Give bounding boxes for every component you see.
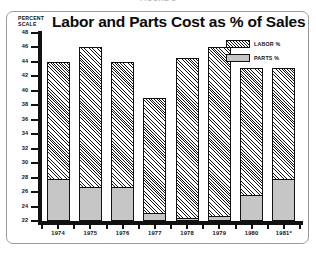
legend-item-parts: PARTS % (226, 54, 300, 65)
x-tick-edge (138, 225, 140, 229)
y-tick (31, 32, 38, 34)
chart-title: Labor and Parts Cost as % of Sales (52, 13, 305, 31)
bar-segment-labor (241, 69, 262, 195)
y-tick-label: 22 (12, 217, 28, 223)
bar-segment-labor (144, 99, 165, 213)
x-tick (122, 225, 124, 229)
bar-1981 (272, 68, 295, 221)
bar-segment-parts (209, 216, 230, 220)
x-tick-edge (299, 225, 301, 229)
x-tick-label: 1976 (105, 230, 141, 236)
chart-legend: LABOR % PARTS % (226, 40, 300, 68)
y-tick (31, 61, 38, 63)
x-tick-edge (170, 225, 172, 229)
bar-segment-parts (273, 179, 294, 220)
bar-segment-labor (209, 48, 230, 216)
bar-segment-labor (112, 63, 133, 187)
x-tick-label: 1978 (169, 230, 205, 236)
y-tick (31, 119, 38, 121)
bar-segment-labor (80, 48, 101, 188)
y-tick-label: 46 (12, 43, 28, 49)
y-tick (31, 162, 38, 164)
chart-screenshot: FIGURE 3 PERCENT SCALE Labor and Parts C… (0, 0, 316, 257)
x-tick-edge (41, 225, 43, 229)
y-tick-label: 24 (12, 203, 28, 209)
bar-1978 (176, 58, 199, 221)
x-tick-label: 1975 (72, 230, 108, 236)
x-tick (186, 225, 188, 229)
x-tick-label: 1977 (137, 230, 173, 236)
legend-swatch-labor-icon (226, 40, 250, 48)
x-tick-edge (267, 225, 269, 229)
bar-1979 (208, 47, 231, 221)
percent-scale-label: PERCENT SCALE (18, 15, 52, 27)
x-tick (57, 225, 59, 229)
y-tick (31, 104, 38, 106)
bar-1980 (240, 68, 263, 221)
y-tick (31, 148, 38, 150)
y-tick (31, 206, 38, 208)
y-tick-label: 30 (12, 159, 28, 165)
y-tick-label: 26 (12, 188, 28, 194)
x-tick (154, 225, 156, 229)
legend-swatch-parts-icon (226, 54, 250, 62)
bar-segment-parts (144, 213, 165, 220)
bar-segment-labor (177, 59, 198, 217)
bar-segment-labor (273, 69, 294, 179)
x-tick-edge (106, 225, 108, 229)
bar-segment-labor (48, 63, 69, 179)
y-tick-label: 32 (12, 145, 28, 151)
y-tick (31, 191, 38, 193)
bar-1974 (47, 62, 70, 221)
x-tick-edge (202, 225, 204, 229)
y-tick (31, 90, 38, 92)
bar-1977 (143, 98, 166, 221)
y-tick (31, 75, 38, 77)
bar-segment-parts (241, 195, 262, 220)
bar-1976 (111, 62, 134, 221)
x-tick-label: 1981* (266, 230, 302, 236)
x-tick (283, 225, 285, 229)
y-tick-label: 40 (12, 87, 28, 93)
bar-segment-parts (112, 187, 133, 220)
figure-caption: FIGURE 3 (0, 0, 316, 2)
y-tick-label: 48 (12, 29, 28, 35)
bar-segment-parts (177, 218, 198, 220)
y-tick (31, 177, 38, 179)
x-tick (251, 225, 253, 229)
y-tick-label: 36 (12, 116, 28, 122)
y-tick-label: 28 (12, 174, 28, 180)
x-tick-label: 1974 (40, 230, 76, 236)
x-tick-label: 1980 (234, 230, 270, 236)
bar-1975 (79, 47, 102, 221)
legend-label-parts: PARTS % (254, 55, 279, 61)
bar-segment-parts (48, 179, 69, 220)
x-tick-edge (73, 225, 75, 229)
y-tick-label: 44 (12, 58, 28, 64)
percent-scale-line2: SCALE (18, 21, 52, 27)
x-tick (218, 225, 220, 229)
legend-label-labor: LABOR % (254, 41, 280, 47)
y-tick (31, 220, 38, 222)
y-tick-label: 38 (12, 101, 28, 107)
y-tick-label: 42 (12, 72, 28, 78)
x-tick (89, 225, 91, 229)
y-tick-label: 34 (12, 130, 28, 136)
x-tick-edge (235, 225, 237, 229)
y-axis-line (38, 31, 42, 225)
legend-item-labor: LABOR % (226, 40, 300, 51)
y-tick (31, 46, 38, 48)
y-tick (31, 133, 38, 135)
bar-segment-parts (80, 187, 101, 220)
x-tick-label: 1979 (201, 230, 237, 236)
